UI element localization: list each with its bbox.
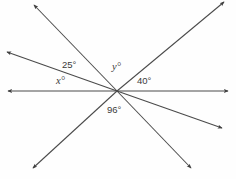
angle-label-x: x°: [56, 76, 65, 87]
ray-lower-left: [33, 91, 117, 168]
angle-diagram: 25° x° y° 40° 96°: [0, 0, 236, 179]
ray-lower-right-steep: [117, 91, 191, 168]
ray-lower-right-shallow: [117, 91, 222, 128]
ray-upper-right: [117, 2, 224, 91]
angle-label-y: y°: [112, 62, 121, 73]
ray-upper-left-steep: [34, 5, 117, 91]
angle-label-96: 96°: [107, 105, 121, 115]
angle-label-25: 25°: [62, 60, 76, 70]
rays-svg: [0, 0, 236, 179]
angle-label-40: 40°: [137, 76, 151, 86]
ray-group: [7, 2, 228, 168]
